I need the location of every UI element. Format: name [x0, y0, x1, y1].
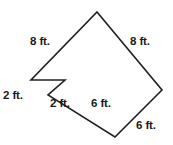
edge-label-8ft-top-right: 8 ft. [130, 36, 150, 48]
edge-label-2ft-left: 2 ft. [3, 90, 23, 102]
edge-label-6ft-lower-middle: 6 ft. [91, 98, 111, 110]
edge-label-6ft-lower-right: 6 ft. [136, 120, 156, 132]
geometry-figure-container: 8 ft. 8 ft. 2 ft. 2 ft. 6 ft. 6 ft. [0, 0, 173, 145]
edge-label-8ft-top-left: 8 ft. [30, 36, 50, 48]
edge-label-2ft-notch: 2 ft. [50, 98, 70, 110]
